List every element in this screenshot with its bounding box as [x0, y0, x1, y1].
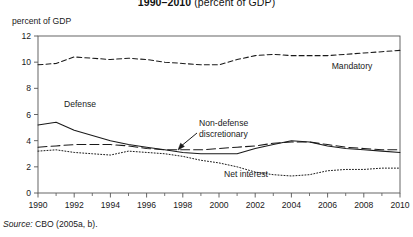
plot-frame	[38, 36, 400, 193]
x-tick-label-1992: 1992	[65, 200, 84, 210]
series-label-mandatory: Mandatory	[332, 61, 373, 71]
y-tick-label-0: 0	[26, 188, 31, 198]
x-tick-label-1996: 1996	[137, 200, 156, 210]
y-tick-label-10: 10	[21, 57, 31, 67]
x-tick-label-2008: 2008	[354, 200, 373, 210]
x-tick-label-2002: 2002	[246, 200, 265, 210]
source-note: Source: CBO (2005a, b).	[3, 219, 98, 229]
y-tick-label-8: 8	[26, 83, 31, 93]
figure-container: 1990–2010 (percent of GDP) percent of GD…	[0, 0, 413, 237]
x-tick-label-2004: 2004	[282, 200, 301, 210]
y-tick-label-2: 2	[26, 162, 31, 172]
y-tick-label-6: 6	[26, 110, 31, 120]
x-tick-label-1998: 1998	[173, 200, 192, 210]
source-label: Source:	[3, 219, 33, 229]
y-tick-label-4: 4	[26, 136, 31, 146]
x-tick-label-1990: 1990	[28, 200, 47, 210]
series-label-nondefense-line2: discretionary	[199, 129, 248, 139]
series-label-nondefense-line1: Non-defense	[199, 118, 248, 128]
source-text: CBO (2005a, b).	[35, 219, 98, 229]
x-tick-label-2000: 2000	[209, 200, 228, 210]
series-label-defense: Defense	[64, 99, 96, 109]
x-tick-label-2006: 2006	[318, 200, 337, 210]
y-tick-label-12: 12	[21, 31, 31, 41]
line-chart-plot: 0246810121990199219941996199820002002200…	[0, 0, 413, 237]
x-tick-label-1994: 1994	[101, 200, 120, 210]
series-label-net-interest: Net interest	[224, 169, 269, 179]
x-tick-label-2010: 2010	[390, 200, 409, 210]
